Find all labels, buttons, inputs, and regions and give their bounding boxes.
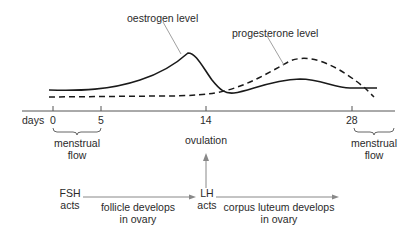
- oestrogen-label: oestrogen level: [127, 12, 198, 24]
- corpus-luteum-arrowhead: [332, 195, 339, 200]
- tick-label-14: 14: [200, 114, 212, 126]
- menstrual-flow-end: menstrual flow: [349, 137, 399, 161]
- lh-acts: LH acts: [196, 187, 218, 211]
- ovulation-label: ovulation: [185, 134, 227, 146]
- menstrual-bracket-start: [53, 128, 101, 135]
- ovulation-arrowhead: [203, 153, 209, 161]
- progesterone-curve: [49, 58, 374, 97]
- fsh-acts: FSH acts: [58, 187, 82, 211]
- progesterone-label: progesterone level: [232, 27, 318, 39]
- oestrogen-leader: [163, 22, 181, 54]
- tick-label-0: 0: [50, 114, 56, 126]
- follicle-develops: follicle develops in ovary: [85, 201, 191, 225]
- tick-label-28: 28: [346, 114, 358, 126]
- corpus-luteum-develops: corpus luteum develops in ovary: [222, 201, 336, 225]
- progesterone-leader: [267, 36, 284, 65]
- menstrual-bracket-end: [354, 128, 394, 135]
- tick-label-5: 5: [98, 114, 104, 126]
- oestrogen-curve: [49, 53, 377, 93]
- follicle-arrowhead: [189, 195, 196, 200]
- axis-label-days: days: [22, 114, 44, 126]
- menstrual-flow-start: menstrual flow: [52, 137, 102, 161]
